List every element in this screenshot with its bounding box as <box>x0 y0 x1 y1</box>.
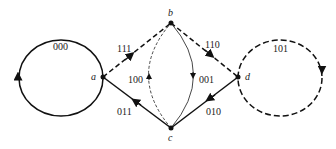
node-label: d <box>245 71 251 82</box>
node-label: a <box>91 71 96 82</box>
edge-label: 001 <box>199 74 214 85</box>
node-label: c <box>168 132 173 143</box>
node-b: b <box>168 7 174 26</box>
edge-label: 101 <box>273 43 288 54</box>
edge-d-d-101: 101 <box>238 40 322 116</box>
node-label: b <box>168 7 173 18</box>
node-c: c <box>168 126 174 144</box>
edge-label: 111 <box>117 43 131 54</box>
edge-label: 011 <box>117 106 132 117</box>
edge-a-b-111: 111 <box>103 23 171 77</box>
edge-label: 010 <box>206 106 221 117</box>
edge-label: 100 <box>128 74 143 85</box>
edge-label: 110 <box>205 39 220 50</box>
edge-b-d-110: 110 <box>171 23 238 77</box>
edge-label: 000 <box>53 41 68 52</box>
state-diagram: 000 111 100 001 110 011 010 101 <box>0 0 336 149</box>
